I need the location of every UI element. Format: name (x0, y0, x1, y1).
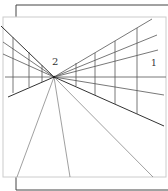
back-frame-bottom (16, 177, 168, 190)
wall-region-label: 1 (151, 59, 157, 68)
back-frame-top (16, 5, 168, 17)
vanishing-point (53, 76, 55, 78)
vanishing-point-label: 2 (52, 57, 58, 67)
perspective-diagram (0, 0, 168, 191)
